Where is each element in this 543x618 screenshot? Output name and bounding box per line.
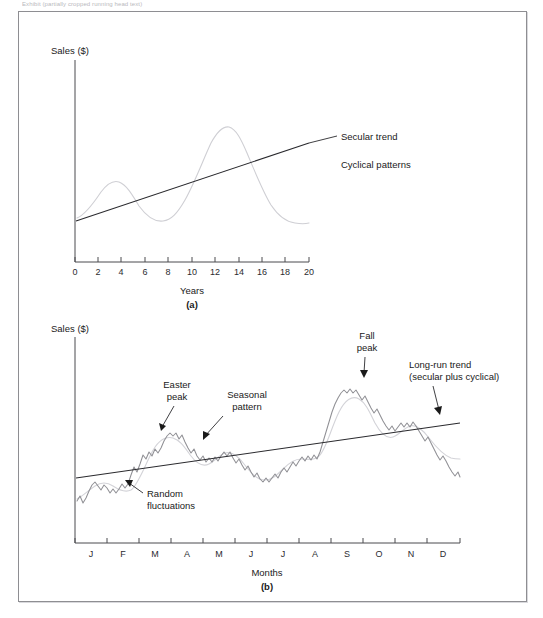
panel-b-tick-mar: M [151,549,159,559]
panel-b-y-axis-title: Sales ($) [51,323,89,334]
long-run-trend-label-line1: Long-run trend [409,359,471,370]
panel-a-tick-2: 2 [95,267,100,277]
easter-peak-label-line1: Easter [163,379,190,390]
panel-b-x-tick-labels: J F M A M J J A S O N D [89,549,447,559]
annotation-fall-peak: Fall peak [357,330,378,378]
panel-a-tick-8: 8 [165,267,170,277]
panel-a-secular-trend-label: Secular trend [341,131,398,142]
panel-a-tick-16: 16 [257,267,267,277]
easter-peak-arrow-icon [159,423,166,431]
panel-b: Sales ($) J F M A [51,323,499,592]
running-head-text: Exhibit (partially cropped running head … [22,0,522,8]
panel-a-cyclical-patterns-label: Cyclical patterns [341,159,411,170]
seasonal-pattern-label-line1: Seasonal [227,389,267,400]
panel-b-tick-sep: S [344,549,350,559]
fall-peak-label-line1: Fall [359,330,374,341]
random-fluctuations-label-line1: Random [147,488,183,499]
panel-a-tick-12: 12 [210,267,220,277]
panel-b-caption: (b) [261,581,273,592]
panel-b-tick-may: M [215,549,223,559]
panel-b-tick-oct: O [375,549,382,559]
seasonal-pattern-arrow-icon [203,431,210,440]
long-run-trend-leader [433,386,439,410]
seasonal-pattern-label-line2: pattern [232,401,262,412]
random-fluctuations-label-line2: fluctuations [147,500,195,511]
long-run-trend-label-line2: (secular plus cyclical) [409,371,499,382]
panel-a-tick-6: 6 [142,267,147,277]
panel-b-tick-jul: J [281,549,286,559]
panel-a-tick-14: 14 [234,267,244,277]
annotation-long-run-trend: Long-run trend (secular plus cyclical) [409,359,499,415]
panel-b-long-run-trend-line [76,423,460,478]
fall-peak-label-line2: peak [357,342,378,353]
panel-b-tick-nov: N [408,549,415,559]
panel-b-tick-aug: A [312,549,318,559]
easter-peak-leader [162,406,174,427]
panel-b-tick-dec: D [440,549,447,559]
panel-a-tick-18: 18 [280,267,290,277]
panel-a-x-tick-labels: 0 2 4 6 8 10 12 14 16 18 20 [72,267,314,277]
panel-a-tick-4: 4 [118,267,123,277]
panel-a-tick-20: 20 [304,267,314,277]
panel-b-x-ticks [75,538,460,543]
figure-page: Exhibit (partially cropped running head … [0,0,543,618]
panel-b-seasonal-pattern-curve [77,398,460,499]
panel-a-y-axis-title: Sales ($) [51,45,89,56]
panel-b-tick-jun: J [249,549,254,559]
figure-canvas: Sales ($) 0 2 4 6 8 10 [19,12,528,603]
seasonal-pattern-leader [205,416,223,436]
panel-b-tick-jan: J [89,549,94,559]
panel-b-tick-apr: A [184,549,190,559]
easter-peak-label-line2: peak [167,391,188,402]
annotation-seasonal-pattern: Seasonal pattern [203,389,267,440]
panel-a-tick-0: 0 [72,267,77,277]
panel-a: Sales ($) 0 2 4 6 8 10 [51,45,411,310]
panel-a-secular-trend-leader [309,136,337,143]
panel-b-x-axis-title: Months [251,567,282,578]
panel-a-tick-10: 10 [187,267,197,277]
annotation-easter-peak: Easter peak [159,379,191,431]
fall-peak-arrow-icon [360,370,368,378]
long-run-trend-arrow-icon [434,406,442,415]
panel-a-x-axis-title: Years [180,285,204,296]
panel-a-caption: (a) [186,299,198,310]
panel-b-tick-feb: F [120,549,126,559]
panel-a-x-ticks [75,257,309,262]
